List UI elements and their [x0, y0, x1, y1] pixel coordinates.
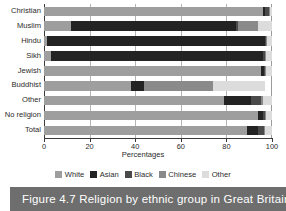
bar-segment-other: [266, 51, 272, 61]
bar-segment-other: [266, 111, 272, 121]
legend-label: White: [65, 170, 84, 179]
legend-swatch-chinese-icon: [159, 171, 166, 178]
x-axis-line: [44, 138, 273, 139]
stacked-bar: [44, 36, 272, 46]
bar-row: [44, 108, 272, 123]
bar-segment-chinese: [238, 21, 259, 31]
y-axis-label-jewish: Jewish: [0, 64, 41, 79]
legend-item-chinese: Chinese: [159, 170, 196, 179]
bar-segment-other: [270, 7, 272, 17]
stacked-bar: [44, 21, 272, 31]
legend-label: Asian: [100, 170, 119, 179]
bar-segment-white: [44, 51, 51, 61]
bar-segment-white: [44, 81, 131, 91]
y-axis-label-hindu: Hindu: [0, 34, 41, 49]
bar-segment-white: [44, 21, 71, 31]
bar-segment-asian: [131, 81, 145, 91]
legend-label: Black: [134, 170, 153, 179]
y-axis-labels: ChristianMuslimHinduSikhJewishBuddhistOt…: [0, 4, 41, 138]
legend-swatch-white-icon: [55, 171, 62, 178]
legend-swatch-asian-icon: [90, 171, 97, 178]
chart-legend: WhiteAsianBlackChineseOther: [0, 170, 286, 179]
bar-segment-other: [258, 21, 272, 31]
bar-segment-asian: [224, 96, 251, 106]
legend-swatch-black-icon: [125, 171, 132, 178]
chart-plot-area: ChristianMuslimHinduSikhJewishBuddhistOt…: [0, 0, 286, 160]
bar-segment-white: [44, 111, 258, 121]
figure-caption-text: Figure 4.7 Religion by ethnic group in G…: [22, 193, 286, 205]
legend-item-other: Other: [202, 170, 231, 179]
bar-segment-other: [263, 96, 272, 106]
bar-segment-black: [251, 96, 260, 106]
legend-swatch-other-icon: [202, 171, 209, 178]
legend-item-black: Black: [125, 170, 153, 179]
bar-segment-other: [267, 36, 272, 46]
y-axis-label-total: Total: [0, 123, 41, 138]
bar-row: [44, 64, 272, 79]
bar-rows: [44, 4, 272, 138]
bar-segment-other: [265, 126, 272, 136]
bar-segment-white: [44, 96, 224, 106]
bar-row: [44, 34, 272, 49]
bar-segment-asian: [247, 126, 258, 136]
bar-row: [44, 93, 272, 108]
stacked-bar: [44, 66, 272, 76]
x-axis-title: Percentages: [0, 150, 286, 159]
bar-row: [44, 123, 272, 138]
legend-label: Other: [212, 170, 231, 179]
y-axis-label-sikh: Sikh: [0, 49, 41, 64]
y-axis-label-buddhist: Buddhist: [0, 78, 41, 93]
stacked-bar: [44, 81, 272, 91]
figure-root: ChristianMuslimHinduSikhJewishBuddhistOt…: [0, 0, 286, 211]
bar-segment-asian: [71, 21, 235, 31]
bar-segment-asian: [51, 51, 263, 61]
stacked-bar: [44, 126, 272, 136]
y-axis-label-no-religion: No religion: [0, 108, 41, 123]
y-axis-label-christian: Christian: [0, 4, 41, 19]
stacked-bar: [44, 96, 272, 106]
y-axis-label-muslim: Muslim: [0, 19, 41, 34]
stacked-bar: [44, 51, 272, 61]
separator-band: [0, 182, 286, 185]
bar-segment-white: [44, 66, 261, 76]
bar-segment-white: [44, 7, 263, 17]
legend-label: Chinese: [168, 170, 196, 179]
bar-row: [44, 49, 272, 64]
bar-segment-chinese: [144, 81, 212, 91]
legend-item-white: White: [55, 170, 84, 179]
y-axis-label-other: Other: [0, 93, 41, 108]
figure-caption: Figure 4.7 Religion by ethnic group in G…: [10, 187, 286, 211]
bar-row: [44, 4, 272, 19]
bar-segment-white: [44, 126, 247, 136]
legend-item-asian: Asian: [90, 170, 119, 179]
bar-row: [44, 19, 272, 34]
stacked-bar: [44, 7, 272, 17]
bar-segment-other: [213, 81, 265, 91]
bar-segment-other: [266, 66, 272, 76]
bar-segment-asian: [47, 36, 265, 46]
stacked-bar: [44, 111, 272, 121]
bar-row: [44, 78, 272, 93]
